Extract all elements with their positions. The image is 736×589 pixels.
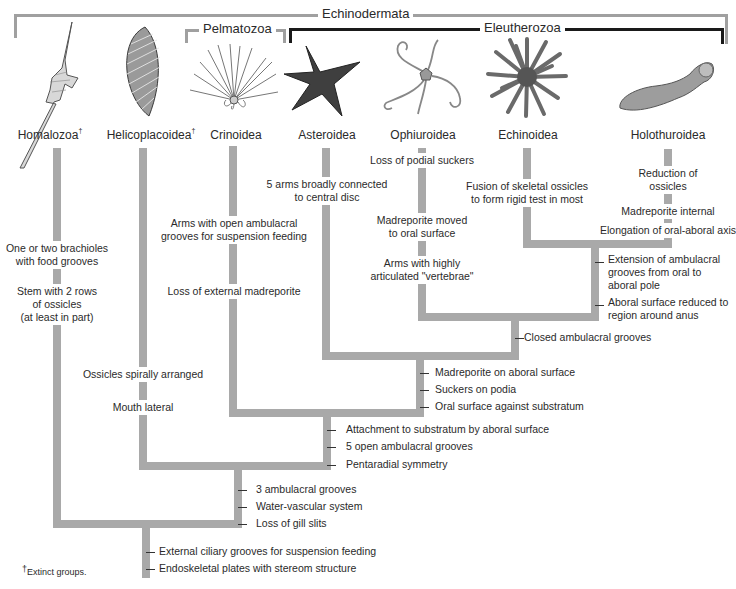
node-ophiuroid-bar xyxy=(418,313,599,321)
trait-node-madreporite-aboral: Madreporite on aboral surface xyxy=(435,366,575,379)
sea-urchin-icon xyxy=(486,36,568,118)
trait-ophiuroidea-suckers: Loss of podial suckers xyxy=(370,153,474,168)
trait-asteroidea-arms: 5 arms broadly connected to central disc xyxy=(267,177,388,205)
tick-mark xyxy=(327,465,336,466)
sea-cucumber-icon xyxy=(616,58,716,114)
homalozoan-fossil-icon xyxy=(10,20,80,170)
tick-mark xyxy=(238,490,247,491)
trait-crinoidea-arms: Arms with open ambulacral grooves for su… xyxy=(161,216,307,244)
tick-mark xyxy=(327,430,336,431)
taxon-label-asteroidea: Asteroidea xyxy=(298,128,355,142)
brittle-star-icon xyxy=(380,36,470,116)
extinct-dagger: † xyxy=(191,127,195,134)
taxon-label-echinoidea: Echinoidea xyxy=(498,128,557,142)
tick-mark xyxy=(420,390,429,391)
extinct-dagger: † xyxy=(22,564,27,574)
trait-node-water-vascular: Water-vascular system xyxy=(256,500,362,513)
echinodermata-label: Echinodermata xyxy=(318,6,413,21)
pelmatozoa-label: Pelmatozoa xyxy=(199,21,276,36)
taxon-label-holothuroidea: Holothuroidea xyxy=(631,128,706,142)
trait-node-extension-ambulacral: Extension of ambulacral grooves from ora… xyxy=(608,253,720,292)
branch-homalozoa xyxy=(53,148,61,528)
trait-holothuroidea-elongation: Elongation of oral-aboral axis xyxy=(600,223,736,238)
trait-node-oral-surface: Oral surface against substratum xyxy=(435,400,584,413)
sea-star-icon xyxy=(284,44,364,120)
eleutherozoa-label: Eleutherozoa xyxy=(480,20,565,35)
tick-mark xyxy=(146,552,155,553)
tick-mark xyxy=(595,305,604,306)
trait-node-suckers-podia: Suckers on podia xyxy=(435,383,516,396)
trait-homalozoa-brachioles: One or two brachioles with food grooves xyxy=(6,241,108,269)
extinct-dagger: † xyxy=(78,127,82,134)
trait-node-five-grooves: 5 open ambulacral grooves xyxy=(346,440,473,453)
trait-helicoplacoidea-spiral: Ossicles spirally arranged xyxy=(83,367,203,382)
crinoid-icon xyxy=(188,40,280,112)
taxon-label-helicoplacoidea: Helicoplacoidea† xyxy=(107,128,196,142)
tick-mark xyxy=(238,507,247,508)
trait-node-three-grooves: 3 ambulacral grooves xyxy=(256,483,356,496)
trait-node-gill-slits: Loss of gill slits xyxy=(256,517,327,530)
trait-helicoplacoidea-mouth: Mouth lateral xyxy=(113,400,174,415)
tick-mark xyxy=(595,262,604,263)
tick-mark xyxy=(515,338,524,339)
tick-mark xyxy=(238,524,247,525)
node-helico-stem xyxy=(234,462,242,528)
taxon-label-homalozoa: Homalozoa† xyxy=(18,128,83,142)
tick-mark xyxy=(146,569,155,570)
tick-mark xyxy=(420,373,429,374)
helicoplacoid-fossil-icon xyxy=(123,26,163,118)
trait-node-aboral-reduced: Aboral surface reduced to region around … xyxy=(608,296,728,322)
trait-node-ciliary-grooves: External ciliary grooves for suspension … xyxy=(159,545,376,558)
branch-crinoidea xyxy=(229,146,237,417)
trait-holothuroidea-ossicles: Reduction of ossicles xyxy=(639,166,698,194)
branch-helicoplacoidea xyxy=(139,148,147,470)
tick-mark xyxy=(420,407,429,408)
tick-mark xyxy=(327,447,336,448)
trait-ophiuroidea-vertebrae: Arms with highly articulated "vertebrae" xyxy=(370,256,473,284)
trait-holothuroidea-madreporite: Madreporite internal xyxy=(621,204,714,219)
trait-node-pentaradial: Pentaradial symmetry xyxy=(346,458,448,471)
taxon-label-crinoidea: Crinoidea xyxy=(210,128,261,142)
trait-ophiuroidea-madreporite: Madreporite moved to oral surface xyxy=(377,213,467,241)
taxon-label-ophiuroidea: Ophiuroidea xyxy=(390,128,455,142)
trait-node-attachment-aboral: Attachment to substratum by aboral surfa… xyxy=(346,423,549,436)
node-pentaradiata-stem xyxy=(323,409,331,470)
trait-node-stereom: Endoskeletal plates with stereom structu… xyxy=(159,562,356,575)
footnote: †Extinct groups. xyxy=(22,567,87,577)
trait-homalozoa-stem: Stem with 2 rows of ossicles (at least i… xyxy=(17,284,97,325)
trait-echinoidea-test: Fusion of skeletal ossicles to form rigi… xyxy=(466,179,588,207)
trait-node-closed-ambulacral: Closed ambulacral grooves xyxy=(524,331,651,344)
node-echinozoa-stem xyxy=(591,240,599,321)
trait-crinoidea-madreporite: Loss of external madreporite xyxy=(167,284,300,299)
